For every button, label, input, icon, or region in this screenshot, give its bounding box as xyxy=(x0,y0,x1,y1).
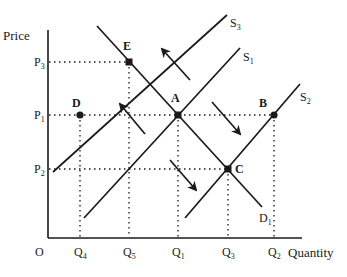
origin-label: O xyxy=(35,245,44,259)
arrow-s1-to-s2-upper-icon xyxy=(212,102,240,134)
point-a-label: A xyxy=(171,91,180,105)
price-label-p1: P1 xyxy=(34,108,45,124)
quantity-label-q5: Q5 xyxy=(123,245,136,261)
arrow-s1-to-s3-upper-icon xyxy=(162,49,190,80)
curve-label-d1: D1 xyxy=(259,211,272,227)
supply-curve-s2 xyxy=(185,84,300,218)
point-b-label: B xyxy=(259,96,267,110)
curve-label-s1: S1 xyxy=(243,50,254,66)
curve-label-s3: S3 xyxy=(230,16,241,32)
quantity-label-q1: Q1 xyxy=(172,245,185,261)
point-c-marker xyxy=(225,166,232,173)
price-label-p2: P2 xyxy=(34,162,45,178)
quantity-label-q4: Q4 xyxy=(74,245,87,261)
quantity-label-q2: Q2 xyxy=(268,245,281,261)
quantity-label-q3: Q3 xyxy=(222,245,235,261)
supply-demand-diagram: E D A B C Price Quantity O P3 P1 P2 Q4 Q… xyxy=(0,0,347,277)
supply-curve-s3 xyxy=(53,15,227,172)
point-a-marker xyxy=(175,112,182,119)
arrow-s1-to-s2-lower-icon xyxy=(170,160,196,190)
x-axis-label: Quantity xyxy=(288,245,334,260)
y-axis-label: Price xyxy=(3,28,30,43)
point-d-label: D xyxy=(72,96,81,110)
price-label-p3: P3 xyxy=(34,55,45,71)
point-d-marker xyxy=(76,111,83,118)
curve-label-s2: S2 xyxy=(300,90,311,106)
point-e-label: E xyxy=(123,39,131,53)
point-c-label: C xyxy=(235,162,244,176)
arrow-s1-to-s3-lower-icon xyxy=(120,104,145,134)
point-b-marker xyxy=(270,111,277,118)
point-e-marker xyxy=(126,59,133,66)
